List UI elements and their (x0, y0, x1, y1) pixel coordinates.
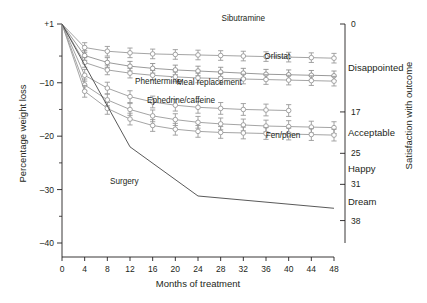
data-point-marker (150, 123, 155, 128)
data-point-marker (264, 77, 269, 82)
data-point-marker (173, 52, 178, 57)
x-axis-line (62, 243, 334, 257)
data-point-marker (105, 68, 110, 73)
x-axis-tick-label: 28 (216, 264, 226, 274)
data-point-marker (82, 53, 87, 58)
data-point-marker (105, 86, 110, 91)
data-point-marker (286, 108, 291, 113)
data-point-marker (332, 133, 337, 138)
data-point-marker (196, 69, 201, 74)
data-point-marker (309, 55, 314, 60)
series-label-surgery: Surgery (110, 177, 140, 186)
data-point-marker (105, 98, 110, 103)
data-point-marker (196, 120, 201, 125)
x-axis-tick-label: 40 (284, 264, 294, 274)
series-label-phentermine: Phentermine (135, 77, 182, 86)
data-point-marker (150, 114, 155, 119)
y2-axis-title: Satisfaction with outcome (403, 62, 414, 170)
y2-category-label: Acceptable (348, 127, 395, 138)
series-sibutramine (62, 24, 337, 63)
data-point-marker (128, 94, 133, 99)
data-point-marker (196, 105, 201, 110)
data-point-marker (150, 66, 155, 71)
x-axis-tick-label: 16 (148, 264, 158, 274)
data-point-marker (128, 64, 133, 69)
y-axis-title: Percentage weight loss (17, 84, 28, 182)
x-axis-tick-label: 48 (329, 264, 339, 274)
y2-axis-tick-label: 31 (351, 179, 361, 189)
x-axis-tick-label: 24 (193, 264, 203, 274)
data-point-marker (218, 53, 223, 58)
data-point-marker (105, 49, 110, 54)
data-point-marker (150, 52, 155, 57)
data-point-marker (264, 108, 269, 113)
y-axis-tick-label: –30 (40, 185, 54, 195)
data-point-marker (196, 53, 201, 58)
x-axis-tick-label: 32 (239, 264, 249, 274)
x-axis-tick-label: 20 (171, 264, 181, 274)
series-label-ephedrine-caffeine: Ephedrine/caffeine (147, 96, 216, 105)
data-point-marker (241, 123, 246, 128)
series-label-orlistat: Orlistat (264, 52, 291, 61)
x-axis-tick-label: 8 (105, 264, 110, 274)
x-axis-title: Months of treatment (156, 278, 241, 289)
y-axis-tick-label: –20 (40, 131, 54, 141)
data-point-marker (286, 78, 291, 83)
data-point-marker (128, 71, 133, 76)
weight-loss-chart: +1–10–20–30–40Percentage weight loss0481… (0, 0, 427, 303)
data-point-marker (241, 54, 246, 59)
x-axis-tick-label: 12 (125, 264, 135, 274)
data-point-marker (332, 79, 337, 84)
x-axis-tick-label: 0 (60, 264, 65, 274)
data-point-marker (332, 56, 337, 61)
y2-axis-tick-label: 25 (351, 148, 361, 158)
y-axis-tick-label: –10 (40, 78, 54, 88)
data-point-marker (218, 106, 223, 111)
series-label-sibutramine: Sibutramine (221, 14, 265, 23)
data-point-marker (309, 78, 314, 83)
data-point-marker (82, 45, 87, 50)
x-axis-tick-label: 36 (261, 264, 271, 274)
y2-category-label: Happy (348, 163, 376, 174)
y2-category-label: Dream (348, 196, 377, 207)
data-point-marker (82, 89, 87, 94)
y-axis-tick-label: +1 (44, 19, 54, 29)
data-point-marker (128, 51, 133, 56)
data-point-marker (173, 127, 178, 132)
data-point-marker (218, 122, 223, 127)
data-point-marker (218, 130, 223, 135)
y-axis-tick-label: –40 (40, 238, 54, 248)
y2-axis-tick-label: 0 (351, 19, 356, 29)
data-point-marker (309, 132, 314, 137)
data-point-marker (128, 107, 133, 112)
y2-axis-tick-label: 17 (351, 107, 361, 117)
chart-canvas: +1–10–20–30–40Percentage weight loss0481… (0, 0, 427, 303)
series-label-fen-phen: Fen/phen (266, 131, 301, 140)
data-point-marker (105, 60, 110, 65)
y2-axis-tick-label: 38 (351, 216, 361, 226)
data-point-marker (82, 73, 87, 78)
data-point-marker (128, 117, 133, 122)
x-axis-tick-label: 44 (307, 264, 317, 274)
data-point-marker (241, 107, 246, 112)
data-point-marker (196, 129, 201, 134)
data-point-marker (173, 68, 178, 73)
data-point-marker (241, 131, 246, 136)
x-axis-tick-label: 4 (82, 264, 87, 274)
series-orlistat (62, 24, 337, 81)
data-point-marker (173, 117, 178, 122)
y2-category-label: Disappointed (348, 62, 403, 73)
series-label-meal-replacement: Meal replacement (177, 78, 243, 87)
